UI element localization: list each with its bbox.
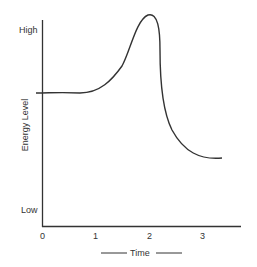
y-axis-label: Energy Level	[20, 90, 30, 160]
x-tick-2: 2	[147, 231, 152, 241]
y-tick-high: High	[19, 25, 38, 35]
x-axis-label: Time	[130, 248, 150, 258]
x-tick-3: 3	[200, 231, 205, 241]
y-tick-low: Low	[21, 205, 38, 215]
x-tick-1: 1	[93, 231, 98, 241]
energy-diagram	[0, 0, 257, 267]
x-tick-0: 0	[40, 231, 45, 241]
energy-curve	[36, 15, 222, 159]
